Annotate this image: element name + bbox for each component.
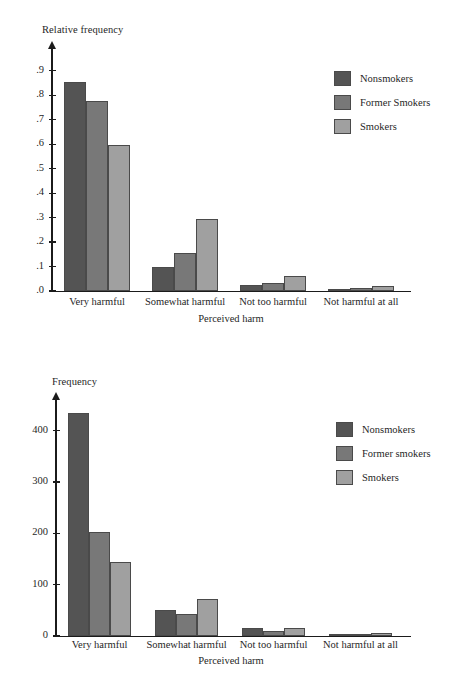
- bar: [64, 82, 86, 291]
- bar: [86, 101, 108, 291]
- bar: [350, 634, 371, 636]
- legend-label: Nonsmokers: [360, 71, 413, 86]
- y-tick: [53, 481, 60, 482]
- bar: [371, 633, 392, 636]
- x-axis-title-bottom: Perceived harm: [126, 655, 336, 666]
- bar: [155, 610, 176, 636]
- y-tick-label: .4: [6, 186, 44, 197]
- x-axis-title-top: Perceived harm: [126, 313, 336, 324]
- y-tick: [49, 119, 56, 120]
- x-category-label: Somewhat harmful: [139, 639, 235, 650]
- y-tick-label: .2: [6, 235, 44, 246]
- bar: [152, 267, 174, 291]
- bar: [263, 631, 284, 636]
- legend-swatch: [334, 119, 351, 134]
- y-tick-label: .9: [6, 64, 44, 75]
- plot-area-bottom: Frequency 0100200300400 Very harmfulSome…: [0, 345, 452, 690]
- x-category-label: Not harmful at all: [313, 296, 409, 307]
- bar: [110, 562, 131, 636]
- y-tick: [49, 168, 56, 169]
- x-category-label: Not too harmful: [225, 296, 321, 307]
- bar: [108, 145, 130, 291]
- y-tick: [49, 217, 56, 218]
- bar: [242, 628, 263, 636]
- bar: [329, 634, 350, 636]
- bar: [284, 276, 306, 291]
- frequency-chart: Frequency 0100200300400 Very harmfulSome…: [0, 345, 452, 690]
- bar: [350, 288, 372, 291]
- y-tick: [49, 241, 56, 242]
- bar: [197, 599, 218, 636]
- x-category-label: Very harmful: [49, 296, 145, 307]
- y-tick: [53, 430, 60, 431]
- y-axis-line-bottom: [55, 399, 57, 637]
- x-category-label: Somewhat harmful: [137, 296, 233, 307]
- y-tick-label: .7: [6, 113, 44, 124]
- y-tick: [53, 635, 60, 636]
- relative-frequency-chart: Relative frequency .0.1.2.3.4.5.6.7.8.9 …: [0, 0, 452, 345]
- y-tick: [49, 290, 56, 291]
- y-tick: [49, 70, 56, 71]
- legend-label: Nonsmokers: [362, 422, 415, 437]
- y-tick-label: 100: [10, 578, 48, 589]
- plot-area-top: Relative frequency .0.1.2.3.4.5.6.7.8.9 …: [0, 0, 452, 345]
- bar: [240, 285, 262, 291]
- y-tick-label: .8: [6, 88, 44, 99]
- y-tick: [53, 584, 60, 585]
- bar: [262, 283, 284, 291]
- legend-label: Former smokers: [362, 446, 431, 461]
- y-tick-label: .3: [6, 211, 44, 222]
- y-tick: [49, 266, 56, 267]
- legend-swatch: [336, 470, 353, 485]
- y-axis-line-top: [51, 48, 53, 292]
- legend-swatch: [334, 95, 351, 110]
- bar: [89, 532, 110, 636]
- y-tick-label: .6: [6, 137, 44, 148]
- bar: [196, 219, 218, 291]
- bar: [176, 614, 197, 636]
- y-axis-title-top: Relative frequency: [42, 24, 123, 35]
- x-category-label: Very harmful: [52, 639, 148, 650]
- bar: [372, 286, 394, 291]
- x-axis-line-top: [51, 291, 411, 292]
- legend-swatch: [336, 422, 353, 437]
- bar: [68, 413, 89, 636]
- y-tick: [49, 144, 56, 145]
- legend-label: Smokers: [360, 119, 397, 134]
- y-tick: [49, 193, 56, 194]
- y-tick-label: .0: [6, 284, 44, 295]
- y-tick: [49, 95, 56, 96]
- legend-label: Smokers: [362, 470, 399, 485]
- y-tick-label: 300: [10, 475, 48, 486]
- y-tick-label: 0: [10, 629, 48, 640]
- y-tick: [53, 533, 60, 534]
- bar: [174, 253, 196, 291]
- legend-label: Former Smokers: [360, 95, 430, 110]
- legend-swatch: [336, 446, 353, 461]
- y-axis-title-bottom: Frequency: [52, 376, 97, 387]
- bar: [284, 628, 305, 636]
- y-tick-label: .5: [6, 162, 44, 173]
- bar: [328, 289, 350, 291]
- x-category-label: Not harmful at all: [313, 639, 409, 650]
- y-tick-label: 400: [10, 424, 48, 435]
- x-category-label: Not too harmful: [226, 639, 322, 650]
- y-tick-label: 200: [10, 526, 48, 537]
- legend-swatch: [334, 71, 351, 86]
- y-tick-label: .1: [6, 260, 44, 271]
- x-axis-line-bottom: [55, 636, 411, 637]
